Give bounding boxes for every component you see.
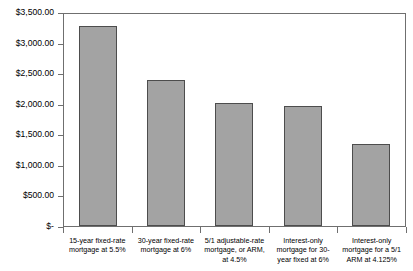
x-axis-category-label: 30-year fixed-ratemortgage at 6% — [132, 236, 201, 270]
y-axis-tick-label: $3,000.00 — [0, 39, 54, 48]
x-axis-label-line: 5/1 adjustable-rate — [201, 236, 268, 245]
x-axis-label-line: mortgage for a 5/1 — [338, 245, 405, 254]
x-axis-tick-mark — [63, 227, 64, 233]
plot-area — [63, 13, 406, 227]
x-axis-label-line: Interest-only — [338, 236, 405, 245]
y-axis-tick-label: $2,000.00 — [0, 100, 54, 109]
y-axis-tick-label: $2,500.00 — [0, 69, 54, 78]
bar[interactable] — [215, 103, 253, 226]
y-axis-tick-label: $3,500.00 — [0, 8, 54, 17]
bar-chart: $3,500.00$3,000.00$2,500.00$2,000.00$1,5… — [0, 0, 413, 271]
x-axis-label-line: mortgage at 5.5% — [64, 245, 131, 254]
x-axis-label-line: 30-year fixed-rate — [133, 236, 200, 245]
y-axis-tick-label: $- — [0, 222, 54, 231]
x-axis-label-line: year fixed at 6% — [270, 255, 337, 264]
bars-layer — [64, 14, 405, 226]
bar[interactable] — [147, 80, 185, 226]
x-axis-category-label: 5/1 adjustable-ratemortgage, or ARM,at 4… — [200, 236, 269, 270]
y-axis-tick-label: $1,500.00 — [0, 130, 54, 139]
bar[interactable] — [352, 144, 390, 226]
y-axis: $3,500.00$3,000.00$2,500.00$2,000.00$1,5… — [0, 0, 58, 240]
x-axis-label-line: Interest-only — [270, 236, 337, 245]
bar[interactable] — [79, 26, 117, 226]
x-axis-labels: 15-year fixed-ratemortgage at 5.5%30-yea… — [63, 236, 406, 270]
bar-slot — [132, 14, 200, 226]
x-axis-tick-mark — [337, 227, 338, 233]
x-axis-label-line: mortgage, or ARM, — [201, 245, 268, 254]
bar-slot — [64, 14, 132, 226]
x-axis-tick-mark — [200, 227, 201, 233]
x-axis-category-label: 15-year fixed-ratemortgage at 5.5% — [63, 236, 132, 270]
bar-slot — [269, 14, 337, 226]
x-axis-label-line: ARM at 4.125% — [338, 255, 405, 264]
y-axis-tick-label: $1,000.00 — [0, 161, 54, 170]
bar[interactable] — [284, 106, 322, 226]
bar-slot — [337, 14, 405, 226]
x-axis-label-line: mortgage for 30- — [270, 245, 337, 254]
x-axis-label-line: at 4.5% — [201, 255, 268, 264]
x-axis-ticks — [63, 227, 406, 233]
x-axis-tick-mark — [269, 227, 270, 233]
x-axis-tick-mark — [132, 227, 133, 233]
x-axis-category-label: Interest-onlymortgage for a 5/1ARM at 4.… — [337, 236, 406, 270]
bar-slot — [200, 14, 268, 226]
x-axis-label-line: 15-year fixed-rate — [64, 236, 131, 245]
y-axis-tick-label: $500.00 — [0, 191, 54, 200]
x-axis-tick-mark — [406, 227, 407, 233]
x-axis-category-label: Interest-onlymortgage for 30-year fixed … — [269, 236, 338, 270]
x-axis-label-line: mortgage at 6% — [133, 245, 200, 254]
